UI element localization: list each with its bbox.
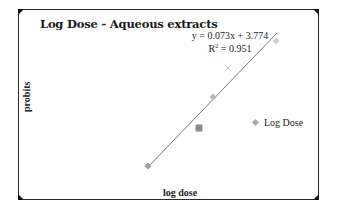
data-point xyxy=(145,163,152,170)
data-point xyxy=(273,38,280,45)
data-point xyxy=(225,65,231,71)
data-point xyxy=(196,125,203,132)
plot-area xyxy=(0,0,338,212)
data-point xyxy=(210,94,217,101)
trendline xyxy=(147,33,277,168)
